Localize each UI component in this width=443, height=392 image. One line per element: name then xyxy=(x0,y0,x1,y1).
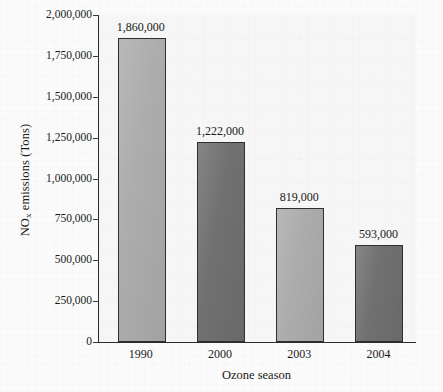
y-axis-tick-mark xyxy=(93,179,99,180)
y-axis-tick-label: 0 xyxy=(30,336,92,348)
y-axis-tick-label: 1,500,000 xyxy=(30,91,92,103)
y-axis-tick-label: 1,750,000 xyxy=(30,50,92,62)
y-axis-tick-mark xyxy=(93,260,99,261)
x-axis-title: Ozone season xyxy=(98,369,415,382)
x-axis-tick-labels: 1990200020032004 xyxy=(98,0,415,392)
x-axis-tick-label: 2004 xyxy=(338,348,418,360)
y-axis-tick-mark xyxy=(93,138,99,139)
y-axis-tick-labels: 0250,000500,000750,0001,000,0001,250,000… xyxy=(30,0,92,392)
y-axis-tick-mark xyxy=(93,56,99,57)
y-axis-tick-label: 750,000 xyxy=(30,213,92,225)
y-axis-tick-label: 1,000,000 xyxy=(30,173,92,185)
y-axis-tick-mark xyxy=(93,301,99,302)
y-axis-tick-label: 2,000,000 xyxy=(30,9,92,21)
y-axis-tick-label: 1,250,000 xyxy=(30,132,92,144)
y-axis-tick-label: 250,000 xyxy=(30,295,92,307)
y-axis-tick-mark xyxy=(93,97,99,98)
y-axis-tick-mark xyxy=(93,342,99,343)
y-axis-tick-mark xyxy=(93,15,99,16)
x-axis-tick-label: 2003 xyxy=(259,348,339,360)
y-axis-tick-mark xyxy=(93,219,99,220)
y-axis-tick-label: 500,000 xyxy=(30,254,92,266)
bar-chart-figure: NOx emissions (Tons) 0250,000500,000750,… xyxy=(0,0,443,392)
x-axis-tick-label: 1990 xyxy=(101,348,181,360)
x-axis-tick-label: 2000 xyxy=(180,348,260,360)
